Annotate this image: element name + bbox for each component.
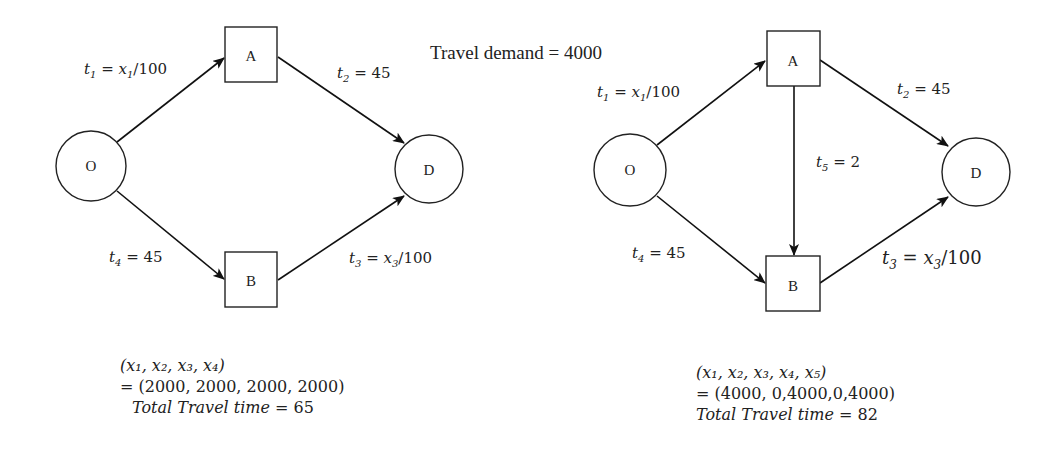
- right-total-time: Total Travel time = 82: [696, 404, 895, 425]
- edge-label-t5: t5 = 2: [816, 153, 860, 173]
- node-destination: D: [395, 135, 463, 203]
- right-network: O A B D t1 = x1/100 t2 = 45 t5 = 2 t4 = …: [594, 31, 1010, 311]
- edge-label-t1: t1 = x1/100: [597, 83, 680, 103]
- edge-label-t4: t4 = 45: [632, 244, 686, 264]
- left-total-time: Total Travel time = 65: [120, 397, 344, 418]
- edge-label-t2: t2 = 45: [897, 80, 951, 100]
- left-result: (x₁, x₂, x₃, x₄) = (2000, 2000, 2000, 20…: [120, 355, 344, 418]
- edge-b-d: [278, 196, 404, 280]
- node-a-label: A: [788, 53, 799, 69]
- right-flow-values: = (4000, 0,4000,0,4000): [696, 383, 895, 404]
- node-a-label: A: [246, 48, 257, 64]
- left-flow-vars: (x₁, x₂, x₃, x₄): [120, 355, 344, 376]
- edge-label-t1: t1 = x1/100: [84, 60, 167, 80]
- node-origin: O: [594, 134, 666, 206]
- node-destination-label: D: [971, 165, 982, 181]
- right-result: (x₁, x₂, x₃, x₄, x₅) = (4000, 0,4000,0,4…: [696, 362, 895, 425]
- node-origin-label: O: [86, 158, 97, 174]
- left-total-value: = 65: [270, 398, 314, 417]
- node-b-label: B: [788, 278, 798, 294]
- travel-demand-title: Travel demand = 4000: [430, 42, 602, 63]
- edge-o-b: [657, 196, 765, 283]
- node-b: B: [225, 252, 277, 307]
- edge-o-a: [657, 61, 765, 145]
- left-total-label: Total Travel time: [132, 398, 270, 417]
- node-destination-label: D: [424, 162, 435, 178]
- edge-a-d: [820, 60, 948, 146]
- left-flow-values: = (2000, 2000, 2000, 2000): [120, 376, 344, 397]
- right-total-value: = 82: [834, 405, 878, 424]
- node-origin-label: O: [625, 162, 636, 178]
- right-flow-vars: (x₁, x₂, x₃, x₄, x₅): [696, 362, 895, 383]
- node-a: A: [767, 31, 820, 86]
- right-total-label: Total Travel time: [696, 405, 834, 424]
- left-network: O A B D t1 = x1/100 t2 = 45 t4 = 45 t3 =…: [56, 27, 463, 307]
- edge-b-d: [820, 197, 948, 283]
- edge-label-t3: t3 = x3/100: [882, 247, 982, 272]
- edge-label-t3: t3 = x3/100: [349, 249, 432, 269]
- node-a: A: [225, 27, 277, 82]
- node-origin: O: [56, 131, 126, 201]
- node-b: B: [766, 256, 820, 311]
- edge-label-t4: t4 = 45: [109, 248, 163, 268]
- node-b-label: B: [246, 273, 256, 289]
- node-destination: D: [942, 138, 1010, 206]
- edge-label-t2: t2 = 45: [337, 64, 391, 84]
